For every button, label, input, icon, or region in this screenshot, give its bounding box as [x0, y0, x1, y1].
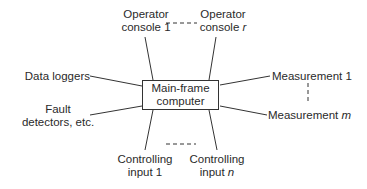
operator-console-r-var: r [243, 21, 247, 33]
controlling-input-n-label: Controlling input n [185, 153, 249, 179]
controlling-input-n-prefix: input [200, 166, 228, 178]
measurement-m-prefix: Measurement [268, 109, 342, 121]
line-controlling-input-1 [145, 110, 153, 150]
controlling-input-1-line2: input 1 [113, 166, 177, 179]
fault-detectors-line1: Fault [18, 103, 98, 116]
line-controlling-input-n [209, 110, 217, 150]
line-operator-console-r [209, 37, 216, 80]
line-measurement-m [220, 106, 267, 115]
controlling-input-n-line2: input n [185, 166, 249, 179]
controlling-input-1-line1: Controlling [113, 153, 177, 166]
line-measurement-1 [220, 76, 270, 85]
center-line2: computer [157, 95, 205, 108]
controlling-input-n-line1: Controlling [185, 153, 249, 166]
data-loggers-label: Data loggers [20, 70, 90, 83]
operator-console-r-prefix: console [200, 21, 243, 33]
controlling-input-1-label: Controlling input 1 [113, 153, 177, 179]
main-frame-computer-box: Main-frame computer [142, 80, 219, 110]
line-data-loggers [90, 76, 142, 86]
operator-console-r-line1: Operator [195, 8, 251, 21]
measurement-m-label: Measurement m [268, 109, 351, 122]
center-line1: Main-frame [151, 82, 209, 95]
operator-console-1-line1: Operator [118, 8, 174, 21]
operator-console-r-label: Operator console r [195, 8, 251, 34]
operator-console-1-label: Operator console 1 [118, 8, 174, 34]
line-operator-console-1 [145, 37, 153, 80]
fault-detectors-label: Fault detectors, etc. [18, 103, 98, 129]
measurement-m-var: m [342, 109, 352, 121]
fault-detectors-line2: detectors, etc. [18, 116, 98, 129]
measurement-1-label: Measurement 1 [272, 70, 352, 83]
operator-console-1-line2: console 1 [118, 21, 174, 34]
controlling-input-n-var: n [228, 166, 234, 178]
operator-console-r-line2: console r [195, 21, 251, 34]
